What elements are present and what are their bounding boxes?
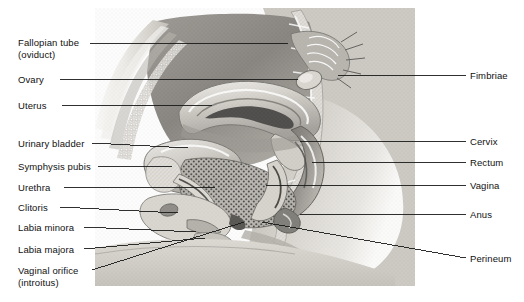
label-clitoris-line1: Clitoris — [18, 202, 48, 213]
label-fallopian-tube-line1: Fallopian tube — [18, 37, 79, 48]
label-fimbriae: Fimbriae — [470, 70, 508, 82]
label-vaginal-orifice-line1: Vaginal orifice — [18, 265, 78, 276]
label-vagina: Vagina — [470, 180, 499, 192]
label-urinary-bladder-line1: Urinary bladder — [18, 138, 84, 149]
label-labia-minora: Labia minora — [18, 222, 74, 234]
anatomy-figure: Fallopian tube(oviduct)OvaryUterusUrinar… — [0, 0, 524, 302]
label-cervix-line1: Cervix — [470, 136, 498, 147]
label-vaginal-orifice-line2: (introitus) — [18, 277, 78, 289]
label-uterus-line1: Uterus — [18, 100, 47, 111]
female-pelvis-sagittal-illustration — [95, 8, 415, 286]
label-fimbriae-line1: Fimbriae — [470, 70, 508, 81]
label-uterus: Uterus — [18, 100, 47, 112]
label-rectum-line1: Rectum — [470, 157, 503, 168]
label-anus-line1: Anus — [470, 209, 492, 220]
label-ovary-line1: Ovary — [18, 74, 44, 85]
label-labia-minora-line1: Labia minora — [18, 222, 74, 233]
label-labia-majora-line1: Labia majora — [18, 244, 74, 255]
label-cervix: Cervix — [470, 136, 498, 148]
label-rectum: Rectum — [470, 157, 503, 169]
label-clitoris: Clitoris — [18, 202, 48, 214]
label-vagina-line1: Vagina — [470, 180, 499, 191]
label-urethra-line1: Urethra — [18, 182, 50, 193]
label-urinary-bladder: Urinary bladder — [18, 138, 84, 150]
label-ovary: Ovary — [18, 74, 44, 86]
label-perineum: Perineum — [470, 253, 511, 265]
label-symphysis-pubis: Symphysis pubis — [18, 161, 91, 173]
label-fallopian-tube-line2: (oviduct) — [18, 49, 79, 61]
label-perineum-line1: Perineum — [470, 253, 511, 264]
label-labia-majora: Labia majora — [18, 244, 74, 256]
label-anus: Anus — [470, 209, 492, 221]
label-symphysis-pubis-line1: Symphysis pubis — [18, 161, 91, 172]
label-fallopian-tube: Fallopian tube(oviduct) — [18, 37, 79, 60]
label-vaginal-orifice: Vaginal orifice(introitus) — [18, 265, 78, 288]
halftone-texture — [95, 8, 415, 286]
label-urethra: Urethra — [18, 182, 50, 194]
